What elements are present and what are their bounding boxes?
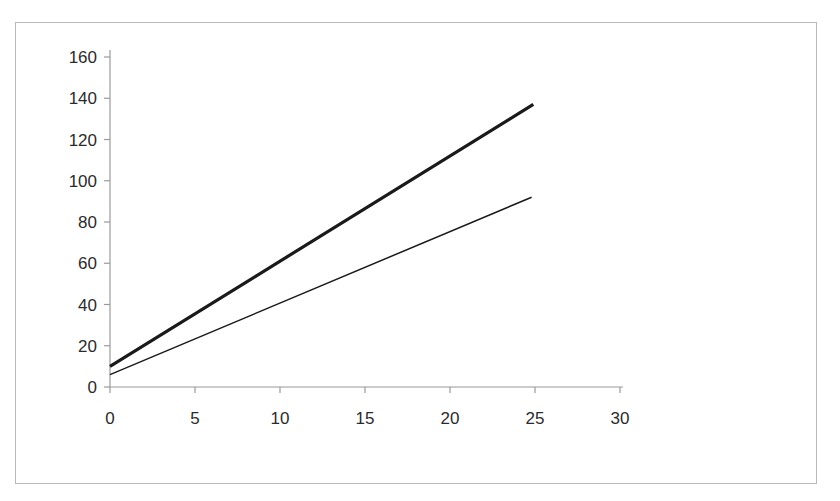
y-tick-label-80: 80 [78, 213, 97, 232]
chart-figure: 0 20 40 60 80 100 120 140 160 0 5 10 15 … [0, 0, 840, 501]
x-axis-ticks [110, 387, 620, 393]
y-tick-label-60: 60 [78, 254, 97, 273]
series-line-thin [110, 197, 532, 374]
y-tick-label-0: 0 [88, 378, 97, 397]
line-chart-plot: 0 20 40 60 80 100 120 140 160 0 5 10 15 … [0, 0, 840, 501]
series-line-thick [110, 104, 533, 366]
y-tick-label-40: 40 [78, 296, 97, 315]
x-tick-label-0: 0 [105, 409, 114, 428]
data-series-group [110, 104, 533, 374]
y-tick-label-140: 140 [69, 89, 97, 108]
y-tick-label-100: 100 [69, 172, 97, 191]
y-axis-ticks [104, 57, 110, 387]
x-axis-tick-labels: 0 5 10 15 20 25 30 [105, 409, 629, 428]
y-tick-label-160: 160 [69, 48, 97, 67]
x-tick-label-15: 15 [356, 409, 375, 428]
y-tick-label-20: 20 [78, 337, 97, 356]
x-tick-label-30: 30 [611, 409, 630, 428]
x-tick-label-25: 25 [526, 409, 545, 428]
x-tick-label-5: 5 [190, 409, 199, 428]
x-tick-label-10: 10 [271, 409, 290, 428]
y-axis-tick-labels: 0 20 40 60 80 100 120 140 160 [69, 48, 97, 397]
x-tick-label-20: 20 [441, 409, 460, 428]
y-tick-label-120: 120 [69, 131, 97, 150]
